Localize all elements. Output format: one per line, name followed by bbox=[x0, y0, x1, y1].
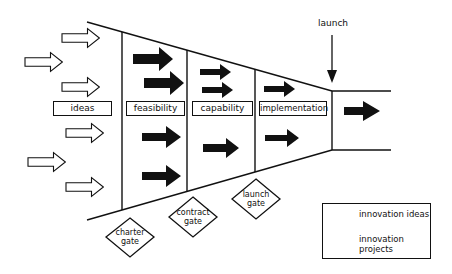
launch-label: launch bbox=[318, 18, 348, 29]
charter-gate-line2: gate bbox=[110, 237, 150, 246]
stage-ideas: ideas bbox=[53, 101, 112, 116]
charter-gate: charter gate bbox=[110, 228, 150, 246]
contract-gate: contract gate bbox=[173, 208, 213, 226]
innovation-project-arrows bbox=[133, 47, 380, 187]
stage-implementation: implementation bbox=[259, 101, 327, 116]
charter-gate-line1: charter bbox=[110, 228, 150, 237]
stage-feasibility: feasibility bbox=[126, 101, 185, 116]
contract-gate-line2: gate bbox=[173, 217, 213, 226]
stage-capability: capability bbox=[192, 101, 253, 116]
legend-ideas-label: innovation ideas bbox=[359, 209, 429, 219]
launch-gate-line2: gate bbox=[236, 199, 276, 208]
launch-gate-line1: launch bbox=[236, 190, 276, 199]
legend-projects-line2: projects bbox=[359, 244, 404, 254]
legend-projects-line1: innovation bbox=[359, 234, 404, 244]
launch-arrow bbox=[327, 35, 337, 83]
launch-gate: launch gate bbox=[236, 190, 276, 208]
legend-projects-label: innovation projects bbox=[359, 234, 404, 254]
contract-gate-line1: contract bbox=[173, 208, 213, 217]
